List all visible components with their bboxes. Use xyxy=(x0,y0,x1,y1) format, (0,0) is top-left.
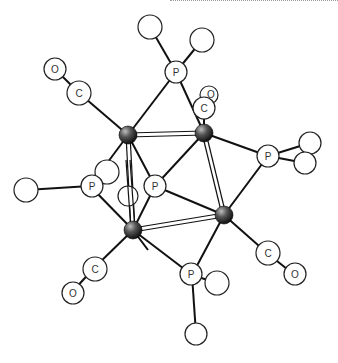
substituent-atom xyxy=(138,15,162,39)
svg-text:P: P xyxy=(265,151,272,162)
molecule-diagram: O C P O C P P P C O C O P xyxy=(0,0,338,363)
svg-text:P: P xyxy=(89,181,96,192)
metal-atom xyxy=(195,124,213,142)
metal-bond xyxy=(202,133,222,215)
substituent-atom xyxy=(299,132,321,154)
metal-bond xyxy=(206,133,226,215)
metal-bond xyxy=(133,213,224,228)
metal-bond xyxy=(128,135,204,137)
phosphorus-atom: P xyxy=(81,175,103,197)
svg-text:C: C xyxy=(75,88,82,99)
metal-atoms xyxy=(119,124,233,239)
metal-metal-bonds xyxy=(126,131,226,232)
svg-text:C: C xyxy=(264,248,271,259)
carbon-atom: C xyxy=(256,241,280,265)
substituent-atom xyxy=(190,28,214,52)
labeled-atoms: O C P O C P P P C O C O P xyxy=(44,58,306,304)
metal-atom xyxy=(215,206,233,224)
metal-bond xyxy=(133,217,224,232)
substituent-atom xyxy=(14,178,38,202)
oxygen-atom: O xyxy=(62,282,84,304)
metal-bond xyxy=(128,131,204,133)
bond xyxy=(128,72,176,135)
oxygen-atom: O xyxy=(284,263,306,285)
phosphorus-atom: P xyxy=(144,175,166,197)
phosphorus-atom: P xyxy=(257,145,279,167)
carbon-atom: C xyxy=(67,81,91,105)
svg-text:P: P xyxy=(173,67,180,78)
svg-text:C: C xyxy=(91,264,98,275)
svg-text:O: O xyxy=(51,64,59,75)
svg-text:P: P xyxy=(152,181,159,192)
phosphorus-atom: P xyxy=(165,61,187,83)
carbon-atom: C xyxy=(83,257,107,281)
oxygen-atom: O xyxy=(44,58,66,80)
substituent-atom xyxy=(185,323,207,345)
svg-text:C: C xyxy=(200,103,207,114)
svg-text:P: P xyxy=(188,269,195,280)
metal-atom xyxy=(119,126,137,144)
svg-text:O: O xyxy=(291,269,299,280)
carbon-atom: C xyxy=(193,97,215,119)
substituent-atom xyxy=(205,271,229,295)
metal-atom xyxy=(124,221,142,239)
substituent-atom xyxy=(294,152,316,174)
svg-text:O: O xyxy=(69,288,77,299)
phosphorus-atom: P xyxy=(180,263,202,285)
